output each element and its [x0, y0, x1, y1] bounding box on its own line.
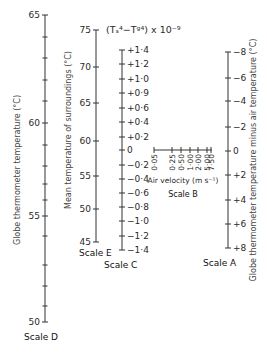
tick-label: 60 — [80, 136, 92, 146]
tick-label: 70 — [80, 62, 92, 72]
tick-label: +1·4 — [127, 45, 149, 55]
tick-label: −1·2 — [127, 231, 149, 241]
formula-label: (Tₛ⁴−Tᵍ⁴) x 10⁻⁹ — [106, 24, 181, 35]
tick-label: +1·2 — [127, 59, 149, 69]
nomogram: 65605550 75706560555045 +1·4+1·2+1·0+0·9… — [0, 0, 267, 353]
scale-b-title: Air velocity (m s⁻¹) — [148, 176, 219, 185]
tick-label: +0·4 — [127, 117, 149, 127]
tick-label: 60 — [29, 118, 41, 128]
scale-d-name: Scale D — [24, 332, 58, 342]
tick-label: +1·0 — [127, 74, 149, 84]
tick-label: +0·9 — [127, 88, 149, 98]
tick-label: 75 — [80, 25, 91, 35]
scale-a: −8−6−4−20+2+4+6+8 — [225, 47, 247, 253]
scale-a-name: Scale A — [203, 258, 237, 268]
scale-c: +1·4+1·2+1·0+0·9+0·6+0·4+0·20−0·2−0·4−0·… — [119, 45, 149, 255]
scale-b-name: Scale B — [168, 190, 198, 199]
tick-label: −0·2 — [127, 160, 149, 170]
tick-label: 0 — [233, 146, 239, 156]
scale-a-title: Globe thermometer temperature minus air … — [249, 39, 258, 282]
scale-d-title: Globe thermometer temperature (°C) — [13, 95, 22, 245]
tick-label: 0 — [127, 145, 133, 155]
tick-label: 2·00 — [194, 154, 203, 171]
tick-label: 65 — [29, 10, 40, 20]
tick-label: 45 — [80, 237, 91, 247]
tick-label: −0·6 — [127, 188, 149, 198]
tick-label: 7·50 — [207, 154, 216, 171]
tick-label: +2 — [233, 170, 246, 180]
scale-c-name: Scale C — [104, 260, 137, 270]
tick-label: 0·05 — [150, 154, 159, 171]
tick-label: +6 — [233, 219, 247, 229]
tick-label: 65 — [80, 98, 91, 108]
tick-label: −0·8 — [127, 202, 149, 212]
tick-label: +4 — [233, 195, 247, 205]
scale-e: 75706560555045 — [80, 25, 99, 247]
tick-label: −2 — [233, 122, 246, 132]
tick-label: 0·50 — [177, 154, 186, 171]
scale-d: 65605550 — [29, 10, 48, 327]
tick-label: +8 — [233, 243, 247, 253]
tick-label: 50 — [29, 317, 41, 327]
tick-label: 50 — [80, 204, 92, 214]
tick-label: −6 — [233, 73, 247, 83]
tick-label: −0·4 — [127, 174, 149, 184]
tick-label: −1·0 — [127, 216, 149, 226]
scale-e-title: Mean temperature of surroundings (°C) — [64, 51, 73, 209]
tick-label: −4 — [233, 96, 247, 106]
tick-label: −1·4 — [127, 245, 149, 255]
tick-label: +0·2 — [127, 132, 149, 142]
tick-label: 55 — [80, 171, 91, 181]
tick-label: 55 — [29, 211, 40, 221]
scale-b: 0·050·250·501·002·005·007·50 — [150, 147, 216, 171]
tick-label: −8 — [233, 47, 247, 57]
tick-label: 0·25 — [168, 154, 177, 171]
scale-e-name: Scale E — [79, 248, 112, 258]
tick-label: +0·6 — [127, 103, 149, 113]
